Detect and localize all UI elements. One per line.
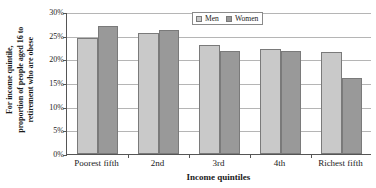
legend-swatch-men-icon [196, 16, 202, 22]
legend-label-men: Men [205, 14, 219, 23]
y-axis-title-line-2: proportion of people aged 16 to [16, 27, 27, 133]
y-axis-tickmark [63, 13, 67, 14]
y-axis-tick-label: 5% [36, 127, 64, 135]
y-axis-title-line-1: For income quintile, [5, 27, 16, 133]
bar-men-poorest-fifth [77, 38, 98, 154]
y-axis-tickmark [63, 60, 67, 61]
y-axis-tick-label: 25% [36, 33, 64, 41]
plot-area [66, 13, 371, 155]
x-axis-tick-label: 4th [274, 157, 286, 169]
x-axis-tick-label: Poorest fifth [74, 157, 119, 169]
bar-women-richest-fifth [342, 78, 363, 154]
bar-men-2nd [138, 33, 159, 154]
y-axis-tickmark [63, 37, 67, 38]
y-axis-tick-label: 15% [36, 80, 64, 88]
y-axis-tick-label: 20% [36, 56, 64, 64]
bar-men-4th [260, 49, 281, 154]
x-axis-tick-label: 2nd [151, 157, 165, 169]
bar-women-3rd [220, 51, 241, 154]
bar-women-2nd [159, 30, 180, 154]
y-axis-tick-label: 30% [36, 9, 64, 17]
bar-women-poorest-fifth [98, 26, 119, 154]
bar-men-3rd [199, 45, 220, 154]
legend-item-women: Women [226, 14, 258, 23]
x-axis-tick-label: Richest fifth [318, 157, 363, 169]
y-axis-tickmark [63, 108, 67, 109]
bar-women-4th [281, 51, 302, 154]
y-axis-tick-labels: 0%5%10%15%20%25%30% [36, 0, 64, 188]
bar-men-richest-fifth [321, 52, 342, 154]
y-axis-tickmark [63, 131, 67, 132]
legend-item-men: Men [196, 14, 219, 23]
y-axis-tickmark [63, 155, 67, 156]
x-axis-title: Income quintiles [66, 172, 371, 183]
legend-swatch-women-icon [226, 16, 232, 22]
y-axis-tick-label: 0% [36, 151, 64, 159]
obesity-by-income-quintile-chart: For income quintile, proportion of peopl… [0, 0, 376, 188]
x-axis-tick-label: 3rd [213, 157, 225, 169]
y-axis-tick-label: 10% [36, 104, 64, 112]
bars-layer [67, 13, 371, 154]
x-axis-tick-labels: Poorest fifth2nd3rd4thRichest fifth [66, 157, 371, 171]
legend: Men Women [192, 12, 263, 25]
legend-label-women: Women [235, 14, 258, 23]
y-axis-tickmark [63, 84, 67, 85]
